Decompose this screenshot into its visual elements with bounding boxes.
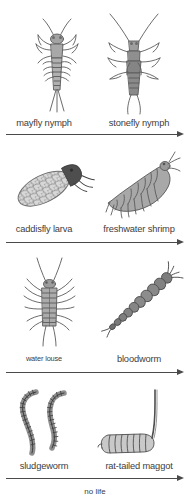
caddisfly-larva-icon [10,153,92,217]
row-2-labels: caddisfly larva freshwater shrimp [0,224,190,234]
biotic-index-diagram: mayfly nymph stonefly nymph [0,0,190,504]
quality-arrow-4 [6,475,184,483]
label-mayfly-nymph: mayfly nymph [0,118,88,128]
row-1-labels: mayfly nymph stonefly nymph [0,118,190,128]
label-freshwater-shrimp: freshwater shrimp [88,224,190,234]
label-sludgeworm: sludgeworm [0,461,88,471]
arrow-head-icon [177,131,184,137]
indicator-row-2: caddisfly larva freshwater shrimp [0,145,190,250]
arrow-shaft [6,478,178,479]
quality-arrow-2 [6,239,184,247]
row-4-labels: sludgeworm rat-tailed maggot [0,461,190,471]
row-3-labels: water louse bloodworm [0,354,190,364]
bloodworm-icon [98,254,182,350]
arrow-shaft [6,242,178,243]
arrow-shaft [6,372,178,373]
arrow-head-icon [177,239,184,245]
label-water-louse: water louse [0,354,88,364]
arrow-shaft [6,134,178,135]
indicator-row-4: sludgeworm rat-tailed maggot no life [0,382,190,504]
label-rat-tailed-maggot: rat-tailed maggot [88,461,190,471]
indicator-row-1: mayfly nymph stonefly nymph [0,0,190,140]
arrow-head-icon [177,475,184,481]
rat-tailed-maggot-icon [96,388,182,458]
no-life-label: no life [0,487,190,496]
indicator-row-3: water louse bloodworm [0,252,190,377]
stonefly-nymph-icon [103,11,165,115]
sludgeworm-icon [12,388,84,454]
label-bloodworm: bloodworm [88,354,190,364]
quality-arrow-3 [6,369,184,377]
water-louse-icon [19,256,81,348]
label-stonefly-nymph: stonefly nymph [88,118,190,128]
quality-arrow-1 [6,131,184,139]
mayfly-nymph-icon [29,14,85,114]
label-caddisfly-larva: caddisfly larva [0,224,88,234]
arrow-head-icon [177,369,184,375]
freshwater-shrimp-icon [100,151,180,219]
